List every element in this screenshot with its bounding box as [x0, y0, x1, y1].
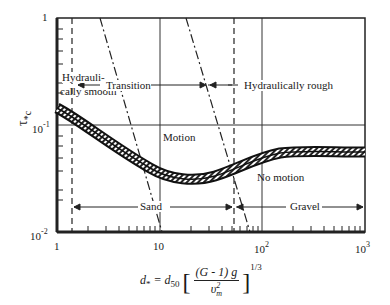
label-transition: Transition — [106, 80, 151, 91]
x-tick-100: 102 — [254, 241, 269, 255]
label-sand: Sand — [140, 201, 162, 212]
label-hydraulically-smooth-1: Hydrauli- — [62, 72, 105, 83]
y-axis-label: τ*c — [16, 111, 33, 126]
label-motion: Motion — [163, 132, 195, 143]
label-no-motion: No motion — [257, 172, 304, 183]
y-tick-1: 1 — [42, 12, 48, 23]
chart-canvas — [0, 0, 390, 305]
x-tick-10: 10 — [153, 241, 164, 252]
x-tick-1: 1 — [54, 241, 60, 252]
label-hydraulically-rough: Hydraulically rough — [244, 80, 333, 91]
shields-curve-band — [57, 108, 365, 179]
label-gravel: Gravel — [290, 201, 320, 212]
x-tick-1000: 103 — [355, 241, 370, 255]
y-tick-0.1: 10-1 — [32, 121, 50, 135]
x-axis-formula: d* = d50 [ (G - 1) g υ2m ]1/3 — [140, 262, 262, 298]
y-tick-0.01: 10-2 — [30, 228, 48, 242]
